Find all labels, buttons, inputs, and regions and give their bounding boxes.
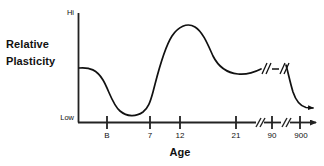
x-axis-break-mark-left [256, 118, 265, 127]
x-axis-break-mark-right [282, 118, 291, 127]
y-axis-title-line-1: Relative [6, 36, 72, 53]
plasticity-curve-segment-a [79, 25, 261, 116]
x-axis-tick-label-7: 7 [148, 131, 152, 140]
chart-plot-area [0, 0, 324, 166]
x-axis-tick-label-900: 900 [294, 131, 307, 140]
curve-break-mark-left [262, 63, 271, 74]
y-axis-tick-label-low: Low [46, 113, 74, 122]
y-axis-title-line-2: Plasticity [6, 53, 72, 70]
plasticity-curve-segment-b [286, 65, 313, 108]
x-axis-tick-label-12: 12 [176, 131, 185, 140]
x-axis-tick-label-b: B [104, 131, 109, 140]
x-axis-tick-label-90: 90 [268, 131, 277, 140]
y-axis-title: Relative Plasticity [6, 36, 72, 70]
plasticity-chart-figure: Relative Plasticity Hi Low B 7 12 21 90 … [0, 0, 324, 166]
x-axis-tick-label-21: 21 [232, 131, 241, 140]
x-axis-title: Age [150, 146, 210, 158]
y-axis-tick-label-hi: Hi [52, 8, 74, 17]
